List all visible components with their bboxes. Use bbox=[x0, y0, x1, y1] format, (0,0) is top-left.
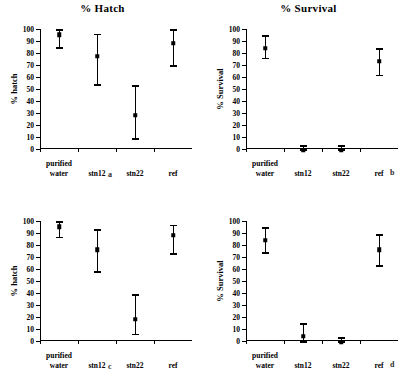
y-axis-tick: 100 bbox=[36, 29, 40, 30]
y-axis-tick: 100 bbox=[242, 221, 246, 222]
y-axis-tick-label: 80 bbox=[27, 50, 35, 58]
error-bar-cap-upper bbox=[300, 145, 307, 147]
y-axis-tick-label: 70 bbox=[27, 254, 35, 262]
x-axis-tick bbox=[154, 341, 155, 344]
y-axis-tick: 10 bbox=[36, 329, 40, 330]
x-axis-tick bbox=[284, 149, 285, 152]
data-point-marker bbox=[133, 317, 138, 322]
panel-letter-a: a bbox=[108, 170, 112, 179]
y-axis-tick: 30 bbox=[242, 305, 246, 306]
figure-panels: % Hatch % hatch 0102030405060708090100pu… bbox=[0, 0, 411, 383]
y-axis-tick-label: 60 bbox=[27, 74, 35, 82]
y-axis-tick: 50 bbox=[242, 281, 246, 282]
error-bar-cap-upper bbox=[132, 85, 139, 87]
data-point-error-bar bbox=[169, 29, 178, 149]
y-axis-tick-label: 90 bbox=[27, 230, 35, 238]
panel-a-title: % Hatch bbox=[0, 2, 205, 14]
panel-b-title: % Survival bbox=[206, 2, 411, 14]
y-axis-tick-label: 20 bbox=[233, 122, 241, 130]
y-axis-tick-label: 0 bbox=[30, 338, 34, 346]
data-point-error-bar bbox=[299, 221, 308, 341]
y-axis-tick: 60 bbox=[242, 77, 246, 78]
error-bar-cap-lower bbox=[94, 271, 101, 273]
panel-c-plot-area: 0102030405060708090100purifiedwaterstn12… bbox=[40, 221, 192, 341]
y-axis-tick-label: 10 bbox=[27, 134, 35, 142]
data-point-error-bar bbox=[131, 221, 140, 341]
y-axis-tick: 70 bbox=[242, 257, 246, 258]
y-axis-tick-label: 90 bbox=[233, 230, 241, 238]
data-point-marker bbox=[301, 148, 306, 153]
y-axis-tick: 30 bbox=[36, 113, 40, 114]
error-bar-cap-upper bbox=[170, 29, 177, 31]
y-axis-tick-label: 100 bbox=[23, 26, 34, 34]
error-bar-cap-lower bbox=[132, 334, 139, 336]
y-axis-line bbox=[40, 29, 41, 149]
panel-letter-b: b bbox=[390, 168, 394, 177]
y-axis-tick: 40 bbox=[242, 101, 246, 102]
y-axis-tick: 100 bbox=[242, 29, 246, 30]
y-axis-tick: 70 bbox=[36, 65, 40, 66]
y-axis-tick: 50 bbox=[36, 89, 40, 90]
y-axis-tick-label: 10 bbox=[233, 326, 241, 334]
data-point-marker bbox=[171, 233, 176, 238]
y-axis-tick: 90 bbox=[36, 41, 40, 42]
y-axis-tick-label: 0 bbox=[30, 146, 34, 154]
y-axis-tick: 80 bbox=[36, 53, 40, 54]
y-axis-line bbox=[40, 221, 41, 341]
x-axis-category-label: purifiedwater bbox=[252, 351, 278, 371]
panel-b-y-axis-label: % Survival bbox=[214, 29, 226, 149]
error-bar-cap-lower bbox=[170, 65, 177, 67]
y-axis-tick-label: 90 bbox=[27, 38, 35, 46]
y-axis-tick-label: 30 bbox=[233, 302, 241, 310]
x-axis-category-label: stn22 bbox=[126, 361, 143, 371]
y-axis-tick: 40 bbox=[36, 293, 40, 294]
panel-d-plot-area: 0102030405060708090100purifiedwaterstn12… bbox=[246, 221, 398, 341]
y-axis-tick: 90 bbox=[242, 41, 246, 42]
y-axis-tick-label: 60 bbox=[233, 74, 241, 82]
y-axis-tick-label: 30 bbox=[233, 110, 241, 118]
data-point-error-bar bbox=[55, 221, 64, 341]
panel-d-y-axis-label: % Survival bbox=[214, 221, 226, 341]
data-point-marker bbox=[339, 148, 344, 153]
y-axis-tick: 80 bbox=[36, 245, 40, 246]
y-axis-tick-label: 30 bbox=[27, 110, 35, 118]
x-axis-tick bbox=[116, 341, 117, 344]
data-point-marker bbox=[57, 33, 62, 38]
error-bar-cap-upper bbox=[376, 234, 383, 236]
y-axis-tick: 90 bbox=[242, 233, 246, 234]
x-axis-tick bbox=[360, 341, 361, 344]
data-point-error-bar bbox=[93, 221, 102, 341]
y-axis-tick-label: 10 bbox=[233, 134, 241, 142]
y-axis-tick-label: 0 bbox=[236, 338, 240, 346]
y-axis-tick: 10 bbox=[36, 137, 40, 138]
x-axis-tick bbox=[322, 341, 323, 344]
y-axis-tick: 10 bbox=[242, 329, 246, 330]
error-bar-cap-upper bbox=[376, 48, 383, 50]
data-point-marker bbox=[57, 225, 62, 230]
error-bar-cap-upper bbox=[132, 294, 139, 296]
x-axis-tick bbox=[78, 341, 79, 344]
panel-c: % hatch 0102030405060708090100purifiedwa… bbox=[0, 192, 205, 383]
y-axis-tick: 60 bbox=[36, 269, 40, 270]
y-axis-tick-label: 60 bbox=[233, 266, 241, 274]
x-axis-category-label: ref bbox=[374, 361, 383, 371]
error-bar-line bbox=[135, 294, 136, 334]
error-bar-cap-upper bbox=[170, 225, 177, 227]
x-axis-category-label: ref bbox=[168, 361, 177, 371]
y-axis-tick-label: 50 bbox=[233, 86, 241, 94]
data-point-error-bar bbox=[169, 221, 178, 341]
y-axis-tick-label: 70 bbox=[233, 62, 241, 70]
data-point-marker bbox=[95, 54, 100, 59]
y-axis-tick-label: 30 bbox=[27, 302, 35, 310]
y-axis-tick-label: 100 bbox=[229, 26, 240, 34]
y-axis-tick-label: 50 bbox=[233, 278, 241, 286]
data-point-error-bar bbox=[337, 221, 346, 341]
y-axis-tick-label: 40 bbox=[27, 98, 35, 106]
y-axis-tick-label: 60 bbox=[27, 266, 35, 274]
y-axis-tick: 10 bbox=[242, 137, 246, 138]
y-axis-tick: 70 bbox=[242, 65, 246, 66]
error-bar-cap-lower bbox=[94, 84, 101, 86]
y-axis-tick-label: 100 bbox=[23, 218, 34, 226]
panel-letter-c: c bbox=[108, 362, 112, 371]
y-axis-tick: 30 bbox=[36, 305, 40, 306]
